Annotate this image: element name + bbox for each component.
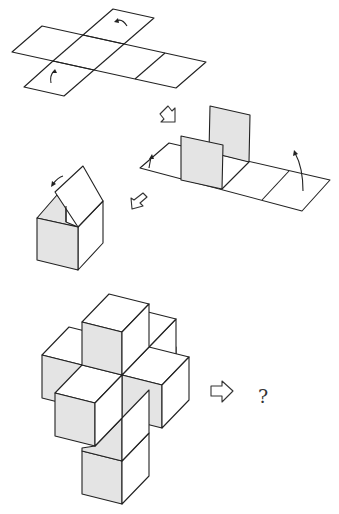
result-arrow-icon xyxy=(211,381,233,402)
net-fold-line xyxy=(53,35,83,61)
net-fold-line xyxy=(94,44,124,70)
net-bottom-square xyxy=(24,61,94,96)
step-arrow-icon xyxy=(160,106,175,122)
net-top-square xyxy=(83,9,154,44)
question-mark: ? xyxy=(258,385,268,407)
box-front-face xyxy=(37,218,78,270)
net-fold-line xyxy=(135,53,165,79)
diagram-canvas: ? xyxy=(0,0,339,514)
fold-line xyxy=(222,162,249,189)
fold-arrow-icon xyxy=(53,176,63,184)
box-closing xyxy=(37,166,103,270)
step-arrow-icon xyxy=(131,193,147,209)
cube-cross xyxy=(42,294,189,504)
flat-net xyxy=(12,9,206,96)
fold-line xyxy=(262,171,289,200)
front-panel xyxy=(181,136,223,189)
arrowhead-icon xyxy=(52,69,57,73)
arrowhead-icon xyxy=(114,18,119,23)
